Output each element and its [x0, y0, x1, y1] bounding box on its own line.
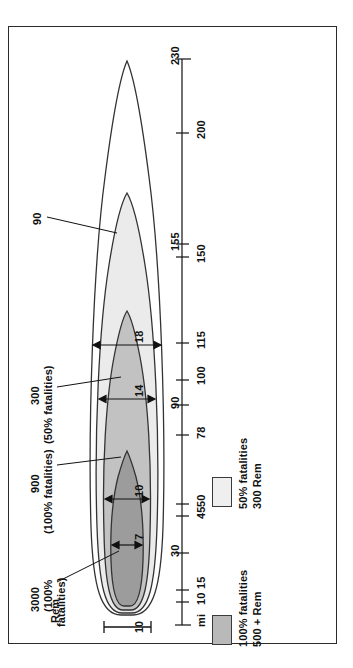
width-label-10: 10	[133, 485, 145, 497]
width-label-18: 18	[133, 331, 145, 343]
width-label-14: 14	[133, 385, 145, 397]
contour-label-300-fat: (50% fatalities)	[42, 365, 54, 444]
legend-swatch-50	[212, 477, 232, 507]
legend-label-50-line2: 300 Rem	[251, 463, 263, 509]
axis-tick-label-200: 200	[195, 120, 207, 139]
axis-tick-label-50: 50	[195, 495, 207, 507]
figure-frame: Rem 10 mi 3000 (100% fatalities) 900 (10…	[8, 26, 337, 644]
axis-tick-label-150: 150	[195, 244, 207, 263]
axis-tick-label-115: 115	[195, 331, 207, 349]
contour-label-900-rem: 900	[29, 474, 41, 493]
axis-tick-label-15: 15	[195, 577, 207, 589]
distance-axis-title: mi	[195, 614, 207, 627]
axis-tick-label-45: 45	[195, 507, 207, 519]
axis-tick-label-30: 30	[169, 545, 181, 557]
axis-tick-label-78: 78	[195, 427, 207, 439]
contour-label-300-rem: 300	[29, 386, 41, 405]
legend-swatch-100	[212, 615, 232, 645]
distance-axis	[175, 59, 191, 625]
axis-tick-label-100: 100	[195, 366, 207, 385]
contour-label-900-fat: (100% fatalities)	[42, 449, 54, 534]
rem-scale-bar-label: 10	[133, 621, 145, 633]
contour-label-3000-fat: fatalities)	[55, 578, 67, 627]
axis-tick-label-230: 230	[169, 46, 181, 65]
legend-label-100-line1: 100% fatalities	[237, 570, 249, 647]
legend-label-100-line2: 500 + Rem	[251, 591, 263, 647]
contour-label-3000-rem: 3000	[29, 587, 41, 612]
contour-label-3000-pct: (100%	[42, 580, 54, 612]
legend-label-50-line1: 50% fatalities	[237, 438, 249, 509]
width-label-7: 7	[133, 534, 145, 540]
contour-label-90-rem: 90	[31, 213, 43, 225]
axis-tick-label-10: 10	[195, 593, 207, 605]
axis-tick-label-90: 90	[169, 397, 181, 409]
axis-tick-label-155: 155	[169, 232, 181, 251]
